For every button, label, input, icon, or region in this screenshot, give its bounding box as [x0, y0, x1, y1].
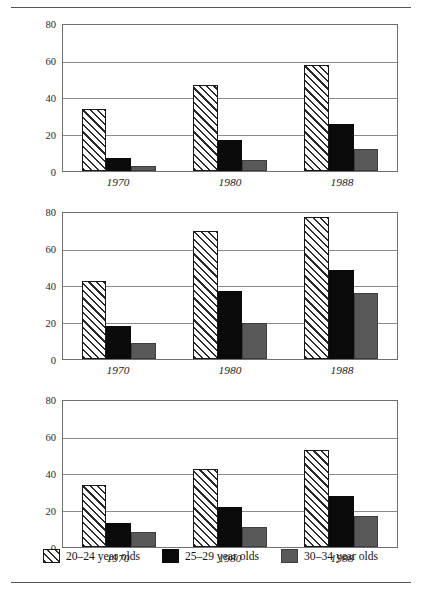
- y-axis-tick-label: 40: [45, 93, 56, 104]
- bar-set: [304, 213, 378, 359]
- y-axis-tick-label: 0: [51, 167, 56, 178]
- bar-groups: [63, 213, 397, 359]
- y-axis-tick-label: 40: [45, 469, 56, 480]
- bar: [131, 166, 156, 171]
- bar-set: [82, 401, 156, 547]
- legend-label: 25–29 year olds: [185, 550, 259, 563]
- bar: [354, 516, 379, 547]
- x-axis-tick-label: 1988: [286, 364, 398, 376]
- bar-group: [286, 213, 397, 359]
- bar: [242, 160, 267, 171]
- bar: [82, 485, 107, 547]
- bar-set: [193, 401, 267, 547]
- chart-panel: Percent of White Women020406080197019801…: [0, 18, 421, 206]
- top-rule: [11, 7, 411, 8]
- bar: [131, 532, 156, 547]
- bar: [329, 270, 354, 359]
- x-axis-tick-label: 1988: [286, 176, 398, 188]
- bar-group: [63, 213, 174, 359]
- bar-group: [286, 401, 397, 547]
- bar: [131, 343, 156, 359]
- bar-group: [174, 213, 285, 359]
- bar-set: [82, 213, 156, 359]
- legend-item: 30–34 year olds: [281, 549, 378, 563]
- chart-figure: Percent of White Women020406080197019801…: [0, 0, 421, 595]
- x-axis-labels: 197019801988: [62, 364, 398, 376]
- bar: [193, 469, 218, 547]
- chart-panel: Percent of Black Women020406080197019801…: [0, 206, 421, 394]
- bar: [82, 281, 107, 359]
- bar-group: [174, 25, 285, 171]
- x-axis-tick-label: 1980: [174, 176, 286, 188]
- legend-label: 20–24 year olds: [66, 550, 140, 563]
- y-axis-tick-label: 40: [45, 281, 56, 292]
- legend-item: 25–29 year olds: [162, 549, 259, 563]
- bar: [329, 496, 354, 547]
- bar: [218, 291, 243, 359]
- y-axis-tick-label: 60: [45, 432, 56, 443]
- bar: [106, 523, 131, 547]
- legend-swatch-diagonal-hatch: [43, 549, 60, 563]
- bar-set: [193, 25, 267, 171]
- bar: [106, 326, 131, 359]
- bar-set: [304, 25, 378, 171]
- bar: [82, 109, 107, 171]
- bar: [242, 323, 267, 360]
- bar: [354, 149, 379, 171]
- bottom-rule: [11, 582, 411, 583]
- legend-swatch-gray-solid: [281, 549, 298, 563]
- y-axis-tick-label: 60: [45, 244, 56, 255]
- bar-set: [304, 401, 378, 547]
- bar: [242, 527, 267, 547]
- legend-item: 20–24 year olds: [43, 549, 140, 563]
- x-axis-tick-label: 1980: [174, 364, 286, 376]
- bar-groups: [63, 25, 397, 171]
- x-axis-labels: 197019801988: [62, 176, 398, 188]
- y-axis-tick-label: 80: [45, 207, 56, 218]
- bar: [106, 158, 131, 171]
- bar-groups: [63, 401, 397, 547]
- bar: [354, 293, 379, 359]
- y-axis-tick-label: 80: [45, 19, 56, 30]
- plot-frame: [62, 400, 398, 548]
- bar-set: [82, 25, 156, 171]
- x-axis-tick-label: 1970: [62, 176, 174, 188]
- y-axis-tick-label: 20: [45, 130, 56, 141]
- legend-swatch-black-solid: [162, 549, 179, 563]
- bar-group: [174, 401, 285, 547]
- chart-panels: Percent of White Women020406080197019801…: [0, 18, 421, 582]
- bar: [193, 85, 218, 171]
- plot-area: 020406080: [62, 212, 398, 360]
- bar: [329, 124, 354, 171]
- bar: [304, 65, 329, 171]
- y-axis-tick-label: 0: [51, 355, 56, 366]
- y-axis-tick-label: 80: [45, 395, 56, 406]
- bar: [218, 507, 243, 547]
- y-axis-tick-label: 20: [45, 318, 56, 329]
- plot-area: 020406080: [62, 400, 398, 548]
- bar: [218, 140, 243, 171]
- bar-set: [193, 213, 267, 359]
- bar: [304, 217, 329, 359]
- plot-frame: [62, 212, 398, 360]
- chart-legend: 20–24 year olds25–29 year olds30–34 year…: [0, 549, 421, 563]
- bar: [193, 231, 218, 359]
- x-axis-tick-label: 1970: [62, 364, 174, 376]
- legend-label: 30–34 year olds: [304, 550, 378, 563]
- bar: [304, 450, 329, 547]
- plot-area: 020406080: [62, 24, 398, 172]
- bar-group: [63, 401, 174, 547]
- y-axis-tick-label: 20: [45, 506, 56, 517]
- bar-group: [63, 25, 174, 171]
- bar-group: [286, 25, 397, 171]
- y-axis-tick-label: 60: [45, 56, 56, 67]
- plot-frame: [62, 24, 398, 172]
